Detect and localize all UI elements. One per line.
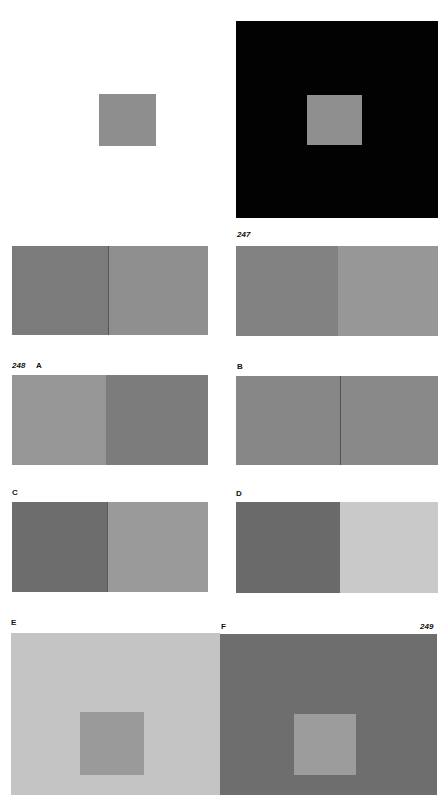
label-f: F xyxy=(221,623,226,631)
label-c: C xyxy=(12,489,18,497)
swatch-right xyxy=(107,502,208,592)
swatch-right xyxy=(340,502,438,593)
swatch-left xyxy=(236,246,338,336)
figure-e xyxy=(11,633,220,795)
swatch-right xyxy=(340,376,438,465)
figure-b-pair xyxy=(236,376,438,465)
seam xyxy=(108,246,109,335)
swatch-left xyxy=(12,246,108,335)
swatch-left xyxy=(12,502,107,592)
figure-row1-left-pair xyxy=(12,246,208,335)
seam xyxy=(107,502,108,592)
figure-a-pair xyxy=(12,375,208,465)
label-d: D xyxy=(236,490,242,498)
page-number-249: 249 xyxy=(420,623,433,631)
figure-d-pair xyxy=(236,502,438,593)
swatch-left xyxy=(236,376,340,465)
figure-f xyxy=(220,634,437,795)
swatch-left xyxy=(236,502,340,593)
label-b: B xyxy=(237,363,243,371)
label-a: A xyxy=(36,362,42,370)
figure-row1-right-pair xyxy=(236,246,438,336)
seam xyxy=(340,376,341,465)
figure-gray-square-on-black xyxy=(236,21,438,218)
figure-c-pair xyxy=(12,502,208,592)
inner-gray-square xyxy=(307,95,362,145)
swatch-right xyxy=(338,246,438,336)
page-number-248: 248 xyxy=(12,362,25,370)
label-e: E xyxy=(11,619,16,627)
swatch-right xyxy=(108,246,208,335)
inner-gray-square xyxy=(80,712,144,775)
swatch-left xyxy=(12,375,106,465)
page-number-247: 247 xyxy=(237,231,250,239)
inner-gray-square xyxy=(294,714,356,775)
figure-gray-square-on-white xyxy=(99,94,156,146)
swatch-right xyxy=(106,375,208,465)
